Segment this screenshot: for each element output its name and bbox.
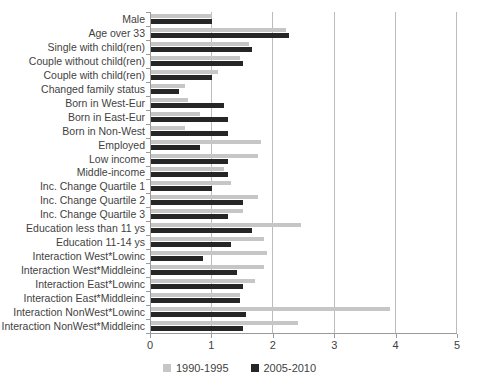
bar-group [151,249,457,263]
bar-group [151,207,457,221]
x-axis-tick-label: 3 [331,339,337,351]
bar-group [151,235,457,249]
bar-2005-2010 [151,117,228,122]
plot-wrap: MaleAge over 33Single with child(ren)Cou… [0,12,457,334]
category-label: Employed [0,138,150,152]
bar-1990-1995 [151,265,264,269]
bar-group [151,305,457,319]
bar-1990-1995 [151,42,249,46]
bar-group [151,179,457,193]
bar-1990-1995 [151,209,243,213]
bar-1990-1995 [151,167,224,171]
bar-1990-1995 [151,126,185,130]
bar-2005-2010 [151,200,243,205]
bar-1990-1995 [151,223,301,227]
category-label: Inc. Change Quartile 2 [0,193,150,207]
category-axis-tick [146,305,150,306]
category-axis-tick [146,54,150,55]
bar-2005-2010 [151,326,243,331]
x-axis-tick [457,334,458,338]
bar-2005-2010 [151,186,212,191]
bar-group [151,152,457,166]
legend-swatch-1990-1995 [163,364,171,372]
category-label: Interaction NonWest*Middleinc [0,319,150,333]
legend-swatch-2005-2010 [251,364,259,372]
bar-2005-2010 [151,47,252,52]
bar-2005-2010 [151,242,231,247]
bar-1990-1995 [151,154,258,158]
x-axis-tick [211,334,212,338]
bar-group [151,138,457,152]
category-axis-tick [146,193,150,194]
bar-1990-1995 [151,14,212,18]
x-axis: 012345 [150,334,457,354]
bar-group [151,82,457,96]
category-label: Born in West-Eur [0,96,150,110]
category-axis-tick [146,207,150,208]
bar-1990-1995 [151,279,255,283]
category-label: Interaction NonWest*Lowinc [0,305,150,319]
bar-1990-1995 [151,70,218,74]
bar-2005-2010 [151,228,252,233]
bar-2005-2010 [151,19,212,24]
category-axis-tick [146,12,150,13]
bar-group [151,193,457,207]
bar-1990-1995 [151,237,264,241]
bar-group [151,277,457,291]
category-axis-tick [146,124,150,125]
legend-label: 2005-2010 [264,362,317,374]
category-label: Middle-income [0,165,150,179]
bar-2005-2010 [151,284,243,289]
bar-2005-2010 [151,159,228,164]
bar-2005-2010 [151,75,212,80]
category-axis-tick [146,179,150,180]
category-axis-tick [146,82,150,83]
bar-group [151,291,457,305]
category-axis-tick [146,249,150,250]
bar-group [151,40,457,54]
legend-item: 2005-2010 [251,362,317,374]
category-label: Couple with child(ren) [0,68,150,82]
x-axis-tick-label: 2 [270,339,276,351]
category-axis-tick [146,277,150,278]
category-axis-tick [146,68,150,69]
legend-label: 1990-1995 [176,362,229,374]
category-label: Education less than 11 ys [0,221,150,235]
category-label: Education 11-14 ys [0,235,150,249]
category-label: Born in Non-West [0,124,150,138]
x-axis-tick-label: 5 [454,339,460,351]
bar-2005-2010 [151,61,243,66]
bar-1990-1995 [151,195,258,199]
bar-1990-1995 [151,112,200,116]
x-axis-tick-label: 4 [393,339,399,351]
bar-group [151,54,457,68]
category-axis-tick [146,166,150,167]
x-axis-tick [334,334,335,338]
x-axis-tick-label: 1 [208,339,214,351]
bar-2005-2010 [151,131,228,136]
x-axis-tick [396,334,397,338]
category-axis-tick [146,138,150,139]
category-axis-tick [146,152,150,153]
bar-chart: MaleAge over 33Single with child(ren)Cou… [0,0,479,390]
bar-group [151,68,457,82]
legend-item: 1990-1995 [163,362,229,374]
bar-group [151,319,457,333]
category-label: Born in East-Eur [0,110,150,124]
bar-1990-1995 [151,293,240,297]
bar-group [151,26,457,40]
bar-2005-2010 [151,256,203,261]
category-label: Interaction West*Middleinc [0,263,150,277]
bar-1990-1995 [151,84,185,88]
category-label: Changed family status [0,82,150,96]
category-axis-tick [146,263,150,264]
bar-2005-2010 [151,270,237,275]
bar-1990-1995 [151,56,240,60]
plot-area [150,12,457,334]
category-label: Age over 33 [0,26,150,40]
bar-group [151,96,457,110]
bar-1990-1995 [151,181,231,185]
category-label: Interaction East*Middleinc [0,291,150,305]
bar-group [151,124,457,138]
bar-1990-1995 [151,321,298,325]
